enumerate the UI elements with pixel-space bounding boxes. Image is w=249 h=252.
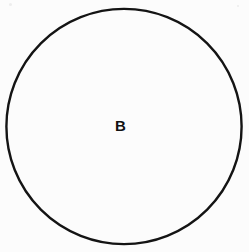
set-label-b: B <box>115 118 126 133</box>
scan-speck-2 <box>237 5 239 7</box>
scan-speck-1 <box>9 3 12 6</box>
diagram-canvas: B <box>0 0 249 252</box>
